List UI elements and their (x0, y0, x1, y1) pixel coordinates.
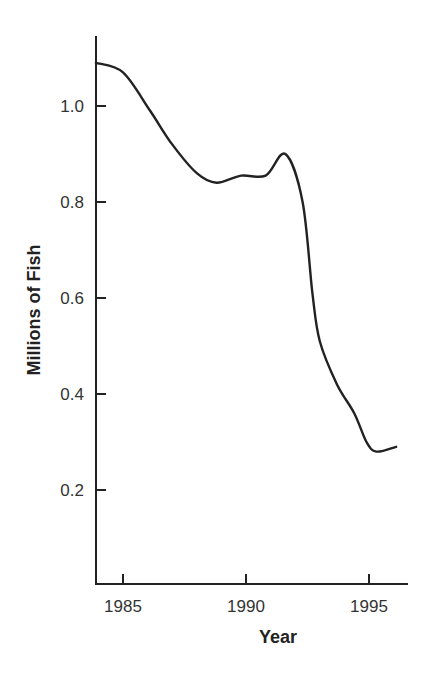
y-ticks: 0.20.40.60.81.0 (60, 97, 106, 500)
y-axis-title: Millions of Fish (24, 245, 44, 376)
x-tick-label: 1995 (350, 597, 388, 616)
y-tick-label: 0.2 (60, 481, 84, 500)
fish-population-line (96, 63, 396, 452)
axes (95, 36, 408, 585)
y-tick-label: 0.4 (60, 385, 84, 404)
x-tick-label: 1985 (104, 597, 142, 616)
y-tick-label: 0.6 (60, 289, 84, 308)
x-ticks: 198519901995 (104, 574, 388, 616)
y-tick-label: 1.0 (60, 97, 84, 116)
y-tick-label: 0.8 (60, 193, 84, 212)
line-chart: 0.20.40.60.81.0 198519901995 Millions of… (0, 0, 428, 683)
x-tick-label: 1990 (227, 597, 265, 616)
x-axis-title: Year (259, 627, 297, 647)
